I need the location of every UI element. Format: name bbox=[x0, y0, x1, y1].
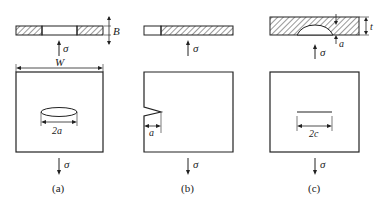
thickness-label-t: t bbox=[370, 21, 373, 32]
thickness-label-B: B bbox=[113, 25, 120, 37]
caption-b: (b) bbox=[181, 182, 194, 195]
stress-arrow-bottom-b: σ bbox=[186, 158, 199, 175]
notch-depth-label: a bbox=[149, 127, 154, 138]
stress-label: σ bbox=[64, 158, 70, 170]
width-label-W: W bbox=[55, 56, 65, 68]
stress-arrow-bottom-c: σ bbox=[313, 158, 326, 175]
center-crack-ellipse bbox=[41, 108, 77, 117]
stress-label: σ bbox=[320, 46, 326, 58]
crack-depth-label: a bbox=[339, 38, 344, 49]
cross-section-c: a t bbox=[270, 14, 373, 49]
caption-c: (c) bbox=[308, 182, 321, 195]
stress-label: σ bbox=[193, 158, 199, 170]
crack-length-label: 2a bbox=[52, 125, 62, 136]
panel-b: σ a σ (b) bbox=[144, 26, 233, 195]
crack-geometry-figure: B σ W 2a bbox=[0, 0, 379, 206]
plate-b-with-edge-notch bbox=[144, 72, 233, 152]
stress-label: σ bbox=[193, 42, 199, 54]
crack-length-label: 2c bbox=[309, 128, 319, 139]
cross-section-b bbox=[144, 26, 233, 35]
stress-arrow-top-c: σ bbox=[313, 44, 326, 59]
stress-arrow-bottom-a: σ bbox=[57, 158, 70, 175]
cross-section-a: B bbox=[16, 16, 120, 45]
stress-arrow-top-b: σ bbox=[186, 40, 199, 56]
panel-c: a t σ 2c σ ( bbox=[270, 14, 373, 195]
panel-a: B σ W 2a bbox=[16, 16, 120, 195]
width-dimension-W: W bbox=[16, 56, 103, 72]
stress-label: σ bbox=[63, 42, 69, 54]
caption-a: (a) bbox=[52, 182, 65, 195]
stress-label: σ bbox=[320, 158, 326, 170]
stress-arrow-top-a: σ bbox=[57, 40, 69, 56]
